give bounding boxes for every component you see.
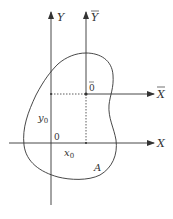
x0-tick bbox=[85, 142, 87, 144]
area-label: A bbox=[93, 162, 101, 173]
x-axis-label: X bbox=[156, 137, 166, 150]
y0-tick bbox=[50, 93, 52, 95]
y0-label: y0 bbox=[37, 112, 48, 125]
diagram-svg: Y Y X X 0 0 y0 x0 A bbox=[0, 0, 173, 219]
ybar-axis-label: Y bbox=[91, 11, 100, 24]
xbar-axis-label: X bbox=[156, 88, 166, 101]
x0-label: x0 bbox=[64, 147, 74, 160]
centroid-origin-label: 0 bbox=[89, 83, 95, 93]
centroid-point bbox=[84, 92, 87, 95]
y-axis-label: Y bbox=[57, 11, 66, 24]
origin-label: 0 bbox=[54, 132, 60, 142]
diagram-canvas: Y Y X X 0 0 y0 x0 A bbox=[0, 0, 173, 219]
